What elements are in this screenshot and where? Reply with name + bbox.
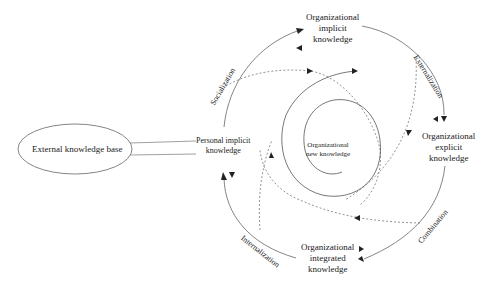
arrowhead-icon: [359, 246, 364, 252]
arrowhead-icon: [296, 45, 302, 51]
org-integrated-line2: integrated: [301, 253, 354, 264]
org-new-knowledge-label: Organizational new knowledge: [306, 141, 350, 159]
org-implicit-knowledge-label: Organizational implicit knowledge: [306, 12, 359, 45]
personal-implicit-line2: knowledge: [196, 146, 250, 156]
org-integrated-line3: knowledge: [301, 264, 354, 275]
arrowhead-icon: [406, 130, 412, 136]
org-explicit-line1: Organizational: [422, 131, 475, 142]
arrowhead-icon: [433, 116, 438, 122]
arrowhead-icon: [296, 28, 304, 34]
org-implicit-line1: Organizational: [306, 12, 359, 23]
org-implicit-line2: implicit: [306, 23, 359, 34]
org-explicit-knowledge-label: Organizational explicit knowledge: [422, 131, 475, 164]
external-connector: [130, 141, 196, 155]
org-explicit-line2: explicit: [422, 142, 475, 153]
arrowhead-icon: [229, 172, 235, 178]
org-integrated-knowledge-label: Organizational integrated knowledge: [301, 242, 354, 275]
arrowhead-icon: [352, 68, 358, 74]
arrowhead-icon: [441, 116, 447, 122]
org-new-line2: new knowledge: [306, 150, 350, 159]
personal-implicit-knowledge-label: Personal implicit knowledge: [196, 136, 250, 156]
external-knowledge-base-label: External knowledge base: [32, 144, 122, 154]
arrowhead-icon: [307, 68, 313, 74]
dashed-spiral-bottom: [260, 150, 420, 223]
solid-spiral: [282, 71, 381, 196]
combination-arc: [364, 166, 445, 259]
org-new-line1: Organizational: [306, 141, 350, 150]
externalization-arc: [362, 26, 444, 115]
external-knowledge-text: External knowledge base: [32, 144, 122, 154]
arrowhead-icon: [221, 172, 227, 180]
org-integrated-line1: Organizational: [301, 242, 354, 253]
personal-implicit-line1: Personal implicit: [196, 136, 250, 146]
socialization-arc: [224, 30, 300, 127]
dashed-spiral-left: [259, 140, 272, 230]
org-explicit-line3: knowledge: [422, 153, 475, 164]
arrowhead-icon: [358, 256, 364, 262]
arrowhead-icon: [269, 152, 274, 158]
dashed-spiral-right: [345, 58, 416, 200]
arrowhead-icon: [354, 215, 360, 221]
org-implicit-line3: knowledge: [306, 34, 359, 45]
